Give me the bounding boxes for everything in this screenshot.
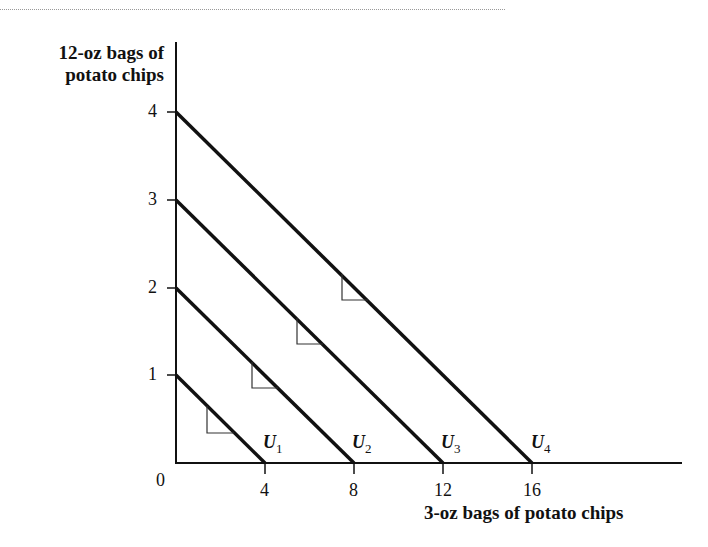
curve-label-u1: U1	[263, 432, 283, 457]
curve-label-u3: U3	[441, 432, 461, 457]
curve-label-u4: U4	[531, 432, 551, 457]
y-tick-label-2: 2	[148, 277, 157, 298]
x-tick-label-8: 8	[349, 480, 358, 501]
x-tick-label-16: 16	[523, 480, 541, 501]
plot-area	[0, 0, 708, 547]
x-axis-title: 3-oz bags of potato chips	[424, 502, 624, 524]
y-tick-label-3: 3	[148, 189, 157, 210]
curve-u4	[176, 112, 532, 463]
y-tick-label-4: 4	[148, 101, 157, 122]
x-tick-label-4: 4	[260, 480, 269, 501]
curve-u3	[176, 200, 443, 463]
x-tick-label-12: 12	[434, 480, 452, 501]
y-tick-label-1: 1	[148, 364, 157, 385]
curve-label-u2: U2	[352, 432, 372, 457]
origin-label: 0	[156, 470, 165, 491]
